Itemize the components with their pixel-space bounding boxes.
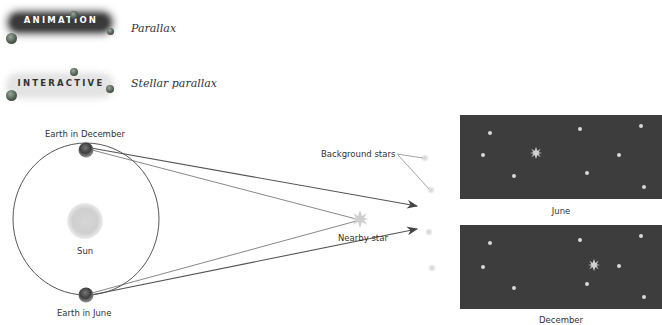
nearby-star-icon (530, 147, 542, 159)
june-starfield (460, 115, 662, 199)
background-stars-label: Background stars (321, 149, 395, 159)
nearby-star-icon (351, 210, 369, 228)
earth-december-icon (79, 143, 94, 158)
december-caption: December (460, 315, 662, 325)
sun-icon (67, 203, 103, 239)
background-star-icon (426, 229, 433, 236)
nearby-star-icon (588, 259, 600, 271)
nearby-star-label: Nearby star (338, 233, 388, 243)
december-starfield (460, 225, 662, 309)
background-star-icon (428, 187, 435, 194)
june-caption: June (460, 206, 662, 216)
background-star-icon (429, 265, 436, 272)
earth-december-label: Earth in December (45, 129, 125, 139)
sun-label: Sun (77, 246, 93, 256)
june-sky-panel (460, 115, 662, 199)
earth-june-label: Earth in June (57, 308, 111, 318)
earth-june-icon (79, 288, 94, 303)
december-sky-panel (460, 225, 662, 309)
